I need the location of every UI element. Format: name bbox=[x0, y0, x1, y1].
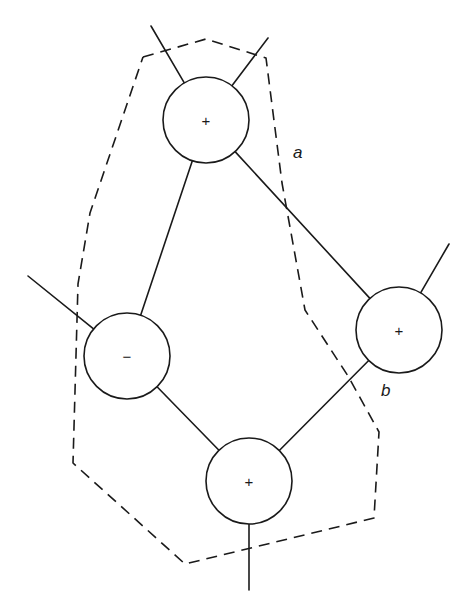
node-sign: − bbox=[123, 348, 132, 365]
nodes: +−++ bbox=[84, 77, 442, 524]
label-b: b bbox=[381, 381, 390, 400]
edge-top-left bbox=[141, 161, 193, 315]
node-bottom: + bbox=[206, 438, 292, 524]
node-left: − bbox=[84, 313, 170, 399]
node-sign: + bbox=[395, 322, 404, 339]
label-a: a bbox=[293, 143, 302, 162]
node-right: + bbox=[356, 287, 442, 373]
node-sign: + bbox=[245, 473, 254, 490]
node-sign: + bbox=[202, 112, 211, 129]
edge-left-bottom bbox=[157, 387, 219, 450]
stub-right-3 bbox=[421, 244, 449, 293]
edge-right-bottom bbox=[279, 361, 368, 451]
node-top: + bbox=[163, 77, 249, 163]
stub-top-0 bbox=[151, 26, 184, 83]
stub-left-2 bbox=[28, 276, 94, 329]
stub-top-1 bbox=[232, 38, 268, 86]
edge-top-right bbox=[235, 152, 370, 299]
node-diagram: +−++ ab bbox=[0, 0, 476, 611]
edges bbox=[141, 152, 370, 451]
